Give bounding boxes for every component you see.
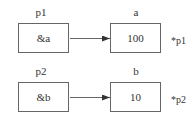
pointer-name-p1: p1: [36, 6, 47, 18]
deref-label-p1: *p1: [171, 35, 186, 46]
pointer-value-p1: &a: [37, 32, 50, 44]
variable-box-b: 10: [110, 82, 161, 112]
pointer-value-p2: &b: [36, 91, 50, 103]
variable-value-b: 10: [130, 91, 141, 103]
variable-value-a: 100: [127, 32, 144, 44]
pointer-name-p2: p2: [36, 65, 47, 77]
pointer-box-p2: &b: [18, 82, 69, 112]
pointer-box-p1: &a: [18, 23, 69, 53]
variable-name-a: a: [134, 6, 139, 18]
variable-name-b: b: [133, 65, 139, 77]
variable-box-a: 100: [110, 23, 161, 53]
deref-label-p2: *p2: [171, 94, 186, 105]
